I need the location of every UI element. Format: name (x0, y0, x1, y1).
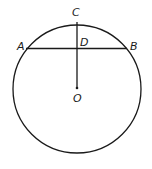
label-b: B (130, 40, 138, 53)
label-c: C (72, 6, 80, 19)
label-o: O (73, 92, 82, 105)
label-a: A (16, 40, 25, 53)
geometry-diagram: C A D B O (0, 0, 152, 169)
label-d: D (80, 36, 88, 49)
center-point (76, 87, 79, 90)
